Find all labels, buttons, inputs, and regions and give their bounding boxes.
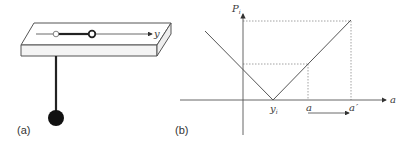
- slider-end-circle-icon: [89, 31, 96, 38]
- payoff-curve: [205, 20, 351, 100]
- panel-b-label: (b): [175, 124, 188, 136]
- pendulum-bob-icon: [48, 110, 64, 126]
- slab-y-axis-label: y: [153, 28, 160, 39]
- y-axis-label: Pi: [231, 3, 241, 15]
- figure: y (a) Pi a yi: [0, 0, 403, 141]
- tick-label-yi: yi: [269, 103, 278, 115]
- panel-a-label: (a): [17, 124, 30, 136]
- x-axis-label: a: [390, 94, 396, 105]
- tick-label-a: a: [306, 102, 312, 113]
- panel-a: y (a): [17, 23, 171, 136]
- slider-start-circle-icon: [53, 31, 59, 37]
- tick-label-a-prime: a′: [349, 102, 359, 113]
- panel-b: Pi a yi a a′ (b): [175, 3, 396, 136]
- slab-front-face: [21, 45, 157, 56]
